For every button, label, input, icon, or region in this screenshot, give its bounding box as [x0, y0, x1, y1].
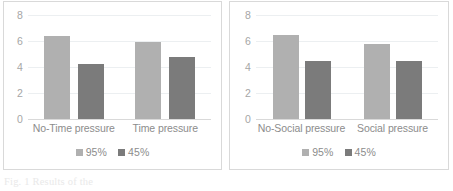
bar[interactable] — [135, 42, 161, 119]
legend-swatch-icon — [118, 149, 125, 156]
x-axis-label: Time pressure — [120, 122, 212, 134]
y-axis-tick-2: 2 — [245, 87, 251, 99]
bar[interactable] — [44, 36, 70, 119]
y-axis-tick-6: 6 — [245, 35, 251, 47]
legend-item[interactable]: 45% — [118, 146, 149, 158]
legend-label: 95% — [86, 146, 107, 158]
legend-swatch-icon — [302, 149, 309, 156]
chart-panel-time-pressure[interactable]: 02468 No-Time pressureTime pressure 95%4… — [3, 1, 222, 170]
chart-panel-social-pressure[interactable]: 02468 No-Social pressureSocial pressure … — [229, 1, 449, 170]
plot-area-right: 02468 — [256, 15, 438, 119]
y-axis-tick-8: 8 — [17, 9, 23, 21]
x-axis-label: No-Time pressure — [28, 122, 120, 134]
legend-swatch-icon — [345, 149, 352, 156]
bar-group — [347, 15, 438, 119]
bar[interactable] — [78, 64, 104, 119]
gridline-0: 0 — [28, 119, 211, 120]
y-axis-tick-4: 4 — [245, 61, 251, 73]
bar[interactable] — [396, 61, 422, 120]
legend-swatch-icon — [76, 149, 83, 156]
plot-area-left: 02468 — [28, 15, 211, 119]
bar[interactable] — [169, 57, 195, 119]
bar[interactable] — [305, 61, 331, 120]
x-axis-labels-right: No-Social pressureSocial pressure — [256, 122, 438, 134]
bar-groups-right — [256, 15, 438, 119]
y-axis-tick-0: 0 — [17, 113, 23, 125]
bar-group — [120, 15, 212, 119]
y-axis-tick-6: 6 — [17, 35, 23, 47]
legend-left: 95%45% — [4, 146, 221, 158]
bar-group — [28, 15, 120, 119]
y-axis-tick-2: 2 — [17, 87, 23, 99]
legend-item[interactable]: 95% — [302, 146, 333, 158]
x-axis-labels-left: No-Time pressureTime pressure — [28, 122, 211, 134]
y-axis-tick-0: 0 — [245, 113, 251, 125]
legend-item[interactable]: 95% — [76, 146, 107, 158]
legend-label: 95% — [312, 146, 333, 158]
x-axis-label: No-Social pressure — [256, 122, 347, 134]
legend-right: 95%45% — [230, 146, 448, 158]
y-axis-tick-8: 8 — [245, 9, 251, 21]
bar[interactable] — [364, 44, 390, 119]
x-axis-label: Social pressure — [347, 122, 438, 134]
legend-item[interactable]: 45% — [345, 146, 376, 158]
bar[interactable] — [273, 35, 299, 119]
legend-label: 45% — [355, 146, 376, 158]
figure-caption: Fig. 1 Results of the — [4, 176, 93, 187]
bar-group — [256, 15, 347, 119]
gridline-0: 0 — [256, 119, 438, 120]
chart-sheet: 02468 No-Time pressureTime pressure 95%4… — [0, 0, 453, 191]
y-axis-tick-4: 4 — [17, 61, 23, 73]
legend-label: 45% — [128, 146, 149, 158]
charts-row: 02468 No-Time pressureTime pressure 95%4… — [0, 0, 453, 170]
bar-groups-left — [28, 15, 211, 119]
